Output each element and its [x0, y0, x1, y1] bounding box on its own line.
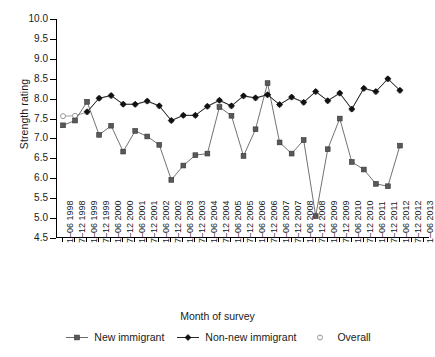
x-tick-label: 7–12 1998: [78, 200, 87, 243]
data-point-square: [109, 123, 114, 128]
x-tick-mark: [375, 238, 376, 242]
legend-marker-circle-icon: [307, 332, 333, 343]
y-tick-label: 9.5: [6, 34, 48, 44]
x-tick-mark: [267, 238, 268, 242]
x-tick-mark: [98, 238, 99, 242]
x-tick-mark: [134, 238, 135, 242]
x-tick-label: 7–12 2007: [294, 200, 303, 243]
series-diamond: [84, 76, 403, 124]
x-tick-label: 1–06 2002: [162, 200, 171, 243]
chart-figure: Strength rating 10.09.59.08.58.07.57.06.…: [0, 0, 435, 357]
x-tick-mark: [339, 238, 340, 242]
data-point-square: [385, 184, 390, 189]
legend-item[interactable]: Overall: [307, 331, 370, 343]
data-point-square: [301, 138, 306, 143]
x-tick-mark: [303, 238, 304, 242]
data-point-square: [85, 99, 90, 104]
data-point-circle: [318, 335, 323, 340]
x-tick-mark: [146, 238, 147, 242]
data-point-diamond: [180, 112, 186, 118]
data-point-square: [229, 113, 234, 118]
x-tick-label: 1–06 2006: [258, 200, 267, 243]
x-tick-mark: [423, 238, 424, 242]
legend-item[interactable]: Non-new immigrant: [175, 331, 296, 343]
x-tick-label: 1–06 1999: [90, 200, 99, 243]
x-axis-title: Month of survey: [0, 310, 435, 322]
data-point-square: [289, 151, 294, 156]
y-tick-label: 6.0: [6, 173, 48, 183]
x-tick-label: 1–06 2003: [186, 200, 195, 243]
x-tick-label: 7–12 2000: [126, 200, 135, 243]
y-tick-label: 10.0: [6, 14, 48, 24]
data-point-square: [121, 149, 126, 154]
data-point-square: [265, 81, 270, 86]
data-point-square: [398, 143, 403, 148]
data-point-square: [169, 177, 174, 182]
x-tick-label: 7–12 1999: [102, 200, 111, 243]
y-tick-label: 4.5: [6, 233, 48, 243]
x-tick-mark: [206, 238, 207, 242]
x-tick-mark: [315, 238, 316, 242]
data-point-diamond: [120, 101, 126, 107]
x-tick-mark: [387, 238, 388, 242]
data-point-square: [349, 160, 354, 165]
x-tick-mark: [74, 238, 75, 242]
legend-marker-square-icon: [64, 332, 90, 343]
x-tick-mark: [411, 238, 412, 242]
legend-label: Non-new immigrant: [205, 331, 296, 343]
x-tick-label: 7–12 2010: [366, 200, 375, 243]
data-point-square: [325, 147, 330, 152]
x-tick-label: 1–06 2010: [354, 200, 363, 243]
x-tick-label: 7–12 2002: [174, 200, 183, 243]
data-point-square: [133, 128, 138, 133]
data-point-square: [97, 132, 102, 137]
x-tick-mark: [291, 238, 292, 242]
x-tick-label: 1–06 2004: [210, 200, 219, 243]
y-tick-label: 8.5: [6, 74, 48, 84]
x-tick-label: 7–12 2004: [222, 200, 231, 243]
x-tick-label: 1–06 2013: [426, 200, 435, 243]
series-square: [61, 81, 403, 219]
data-point-square: [157, 142, 162, 147]
x-tick-label: 7–12 2011: [390, 201, 399, 243]
x-tick-label: 7–12 2005: [246, 200, 255, 243]
y-tick-mark: [50, 238, 56, 239]
x-tick-label: 1–06 2011: [378, 201, 387, 243]
x-tick-label: 1–06 1998: [66, 200, 75, 243]
x-tick-label: 7–12 2009: [342, 200, 351, 243]
x-tick-label: 1–06 2007: [282, 200, 291, 243]
x-tick-mark: [327, 238, 328, 242]
y-tick-label: 9.0: [6, 54, 48, 64]
data-point-square: [337, 116, 342, 121]
data-point-square: [145, 134, 150, 139]
x-tick-mark: [243, 238, 244, 242]
x-tick-mark: [194, 238, 195, 242]
y-tick-label: 5.5: [6, 193, 48, 203]
x-tick-label: 1–06 2012: [402, 200, 411, 243]
x-tick-mark: [62, 238, 63, 242]
y-tick-label: 7.5: [6, 114, 48, 124]
legend-item[interactable]: New immigrant: [64, 331, 164, 343]
data-point-square: [75, 335, 80, 340]
legend-label: Overall: [337, 331, 370, 343]
data-point-circle: [61, 114, 66, 119]
x-tick-label: 7–12 2008: [318, 200, 327, 243]
x-tick-mark: [279, 238, 280, 242]
data-point-square: [241, 154, 246, 159]
x-tick-label: 1–06 2009: [330, 200, 339, 243]
x-tick-label: 1–06 2000: [114, 200, 123, 243]
x-tick-label: 1–06 2001: [138, 200, 147, 243]
data-point-square: [361, 167, 366, 172]
x-tick-label: 7–12 2006: [270, 200, 279, 243]
legend-label: New immigrant: [94, 331, 164, 343]
x-tick-mark: [110, 238, 111, 242]
y-tick-label: 8.0: [6, 94, 48, 104]
y-tick-label: 6.5: [6, 153, 48, 163]
x-tick-mark: [170, 238, 171, 242]
x-tick-mark: [255, 238, 256, 242]
data-point-square: [61, 123, 66, 128]
x-tick-mark: [122, 238, 123, 242]
data-point-square: [205, 151, 210, 156]
data-point-square: [373, 181, 378, 186]
x-tick-mark: [218, 238, 219, 242]
